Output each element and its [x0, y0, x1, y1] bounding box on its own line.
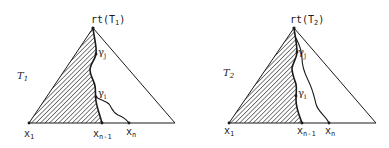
- node-gamma-j: [95, 53, 98, 56]
- tree-diagrams: rt(T1) T1 γj γi x1 xn-1 xn rt(T2) T2 γj …: [0, 0, 389, 148]
- tree-label: T1: [17, 70, 28, 83]
- leaf-x-n-label: xn: [126, 126, 136, 139]
- node-gamma-i-label: γi: [298, 87, 307, 101]
- leaf-x1-label: x1: [224, 125, 234, 138]
- leaf-x-n-minus-1: [301, 122, 304, 125]
- root-node: [91, 26, 94, 29]
- node-gamma-i: [95, 96, 98, 99]
- root-node: [292, 26, 295, 29]
- tree-diagram-2: rt(T2) T2 γj γi x1 xn-1 xn: [223, 14, 376, 138]
- leaf-x-n: [128, 122, 131, 125]
- leaf-x1: [28, 122, 31, 125]
- leaf-x-n-minus-1-label: xn-1: [297, 125, 316, 138]
- leaf-x-n-minus-1: [101, 122, 104, 125]
- root-label: rt(T1): [91, 14, 125, 27]
- leaf-x-n-minus-1-label: xn-1: [93, 128, 112, 141]
- leaf-x1: [228, 122, 231, 125]
- tree-diagram-1: rt(T1) T1 γj γi x1 xn-1 xn: [17, 14, 175, 141]
- leaf-x-n: [328, 122, 331, 125]
- tree-label: T2: [223, 67, 235, 80]
- node-gamma-i: [295, 95, 298, 98]
- leaf-x1-label: x1: [24, 128, 34, 141]
- leaf-x-n-label: xn: [325, 125, 335, 138]
- hatched-region: [229, 28, 302, 123]
- root-label: rt(T2): [290, 14, 324, 27]
- node-gamma-j-label: γj: [98, 46, 106, 60]
